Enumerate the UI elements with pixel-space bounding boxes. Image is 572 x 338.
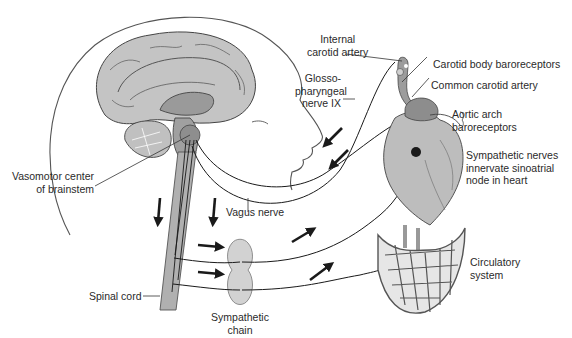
label-vagus-nerve: Vagus nerve [226,206,284,219]
circulatory-mesh [378,228,465,313]
label-internal-carotid-artery: Internal carotid artery [307,33,368,58]
baroreceptor-diagram: Internal carotid artery Carotid body bar… [0,0,572,338]
label-carotid-body-baroreceptors: Carotid body baroreceptors [433,58,560,71]
label-aortic-arch-baroreceptors: Aortic arch baroreceptors [452,108,517,133]
label-spinal-cord: Spinal cord [89,290,142,303]
sympathetic-chain [228,239,253,304]
brain [96,32,255,158]
label-glossopharyngeal-nerve: Glosso- pharyngeal nerve IX [295,72,341,110]
vagus-nerve-path [196,115,415,187]
label-circulatory-system: Circulatory system [470,256,520,281]
label-sympathetic-nerves: Sympathetic nerves innervate sinoatrial … [466,149,558,187]
label-sympathetic-chain: Sympathetic chain [208,311,272,336]
label-common-carotid-artery: Common carotid artery [431,79,538,92]
label-vasomotor-center: Vasomotor center of brainstem [0,170,94,195]
